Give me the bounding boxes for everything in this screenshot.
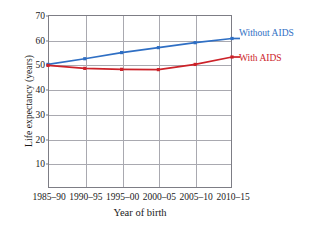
x-tick-label: 2000–05: [143, 192, 176, 202]
y-tick-mark: [46, 16, 49, 17]
gridline-horizontal: [49, 41, 231, 42]
y-tick-label: 40: [36, 85, 46, 95]
life-expectancy-line-chart: Life expectancy (years) 1020304050607019…: [0, 0, 314, 228]
x-tick-label: 1990–95: [69, 192, 102, 202]
gridline-vertical: [86, 16, 87, 187]
gridline-horizontal: [49, 140, 231, 141]
x-tick-label: 1995–00: [106, 192, 139, 202]
gridline-vertical: [159, 16, 160, 187]
gridline-vertical: [196, 16, 197, 187]
y-tick-label: 30: [36, 110, 46, 120]
y-tick-mark: [46, 139, 49, 140]
x-tick-label: 2005–10: [180, 192, 213, 202]
x-axis-title: Year of birth: [48, 207, 232, 218]
y-tick-mark: [46, 164, 49, 165]
gridline-horizontal: [49, 65, 231, 66]
y-axis-title: Life expectancy (years): [24, 26, 34, 176]
legend-item-without-aids: Without AIDS: [239, 28, 294, 38]
y-tick-label: 50: [36, 60, 46, 70]
y-tick-label: 60: [36, 36, 46, 46]
y-tick-label: 20: [36, 135, 46, 145]
y-tick-mark: [46, 40, 49, 41]
y-tick-label: 10: [36, 159, 46, 169]
y-tick-mark: [46, 90, 49, 91]
gridline-horizontal: [49, 90, 231, 91]
gridline-horizontal: [49, 115, 231, 116]
y-tick-mark: [46, 114, 49, 115]
gridline-vertical: [123, 16, 124, 187]
y-tick-mark: [46, 65, 49, 66]
gridline-horizontal: [49, 164, 231, 165]
x-tick-label: 2010–15: [216, 192, 249, 202]
legend-item-with-aids: With AIDS: [239, 53, 282, 63]
plot-area: 102030405060701985–901990–951995–002000–…: [48, 15, 232, 188]
y-tick-label: 70: [36, 11, 46, 21]
x-tick-label: 1985–90: [32, 192, 65, 202]
